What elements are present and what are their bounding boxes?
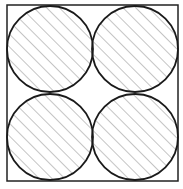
hatched-circle-bottom-right (92, 94, 178, 180)
circles-group (7, 6, 178, 180)
hatched-circle-top-right (92, 6, 178, 92)
circle-packing-diagram (0, 0, 183, 189)
hatched-circle-top-left (7, 6, 93, 92)
hatched-circle-bottom-left (7, 94, 93, 180)
